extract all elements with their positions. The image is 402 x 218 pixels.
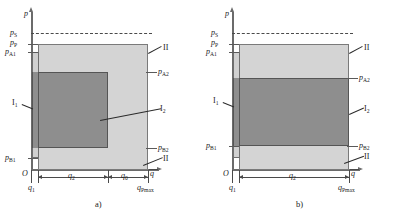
tick-pa2-a [146, 72, 157, 73]
label-ps-a: pS [10, 29, 17, 37]
panel-b: p pS pP pA1 pB1 O q pA2 pB2 II II I1 I2 [201, 0, 402, 218]
dim-label-qpmax-b: qPmax [338, 184, 355, 192]
leader-ii-top-a [148, 46, 162, 54]
label-pb1-a: pB1 [5, 154, 16, 162]
label-pa1-a: pA1 [5, 48, 16, 56]
tick-pa1-a [28, 52, 38, 53]
label-ii-bottom-a: II [163, 155, 168, 163]
dim-label-q2-a: q2 [68, 172, 75, 180]
label-pa2-a: pA2 [158, 68, 169, 76]
dim-tick-qpmax-b [349, 170, 350, 183]
axis-label-q-b: q [351, 170, 355, 178]
label-i2-b: I2 [364, 105, 369, 113]
dim-line-q0-a [108, 177, 148, 178]
origin-label-a: O [22, 170, 28, 178]
label-pp-a: pP [10, 39, 17, 47]
caption-a: a) [95, 199, 102, 209]
dim-arrow-q2-right-a [104, 175, 108, 179]
origin-label-b: O [223, 170, 229, 178]
tick-pp-a [28, 44, 38, 45]
dim-label-q1-b: q1 [229, 184, 236, 192]
label-pp-b: pP [211, 39, 218, 47]
region-i2-b [239, 78, 349, 146]
tick-pb1-a [28, 158, 38, 159]
dim-arrow-q2-left-b [239, 175, 243, 179]
dim-label-q0-a: q0 [121, 172, 128, 180]
ps-dashed-line-b [232, 33, 353, 34]
dim-arrow-q0-left-a [108, 175, 112, 179]
label-ii-top-a: II [163, 44, 168, 52]
dim-label-qpmax-a: qPmax [137, 184, 154, 192]
label-pb2-a: pB2 [158, 144, 169, 152]
tick-pb1-b [229, 146, 239, 147]
tick-pb2-b [347, 146, 358, 147]
dim-tick-q1-b [232, 170, 233, 183]
dim-tick-qpmax-a [148, 170, 149, 183]
dim-arrow-q2-left-a [38, 175, 42, 179]
label-pa1-b: pA1 [206, 48, 217, 56]
ps-dashed-line-a [31, 33, 152, 34]
label-ii-top-b: II [364, 44, 369, 52]
q-label-overbar-b [350, 169, 359, 170]
tick-pp-b [229, 44, 239, 45]
p-axis-arrow-b [230, 7, 234, 12]
dim-arrow-q0-right-a [144, 175, 148, 179]
tick-pa1-b [229, 52, 239, 53]
dim-label-q1-a: q1 [28, 184, 35, 192]
caption-b: b) [296, 199, 303, 209]
leader-ii-top-b [349, 46, 363, 54]
label-ii-bottom-b: II [364, 153, 369, 161]
tick-pb2-a [146, 148, 157, 149]
label-pa2-b: pA2 [359, 74, 370, 82]
label-i1-b: I1 [213, 97, 218, 105]
dim-arrow-q2-right-b [345, 175, 349, 179]
region-i2-a [38, 72, 108, 148]
tick-pa2-b [347, 78, 358, 79]
label-ps-b: pS [211, 29, 218, 37]
panel-a: p pS pP pA1 pB1 O q pA2 pB2 II II I1 I2 [0, 0, 201, 218]
dim-label-q2-b: q2 [289, 172, 296, 180]
axis-label-q-a: q [150, 170, 154, 178]
label-pb1-b: pB1 [206, 142, 217, 150]
leader-i2-b [349, 107, 364, 114]
dim-tick-q1-a [31, 170, 32, 183]
q-label-overbar-a [149, 169, 158, 170]
label-i1-a: I1 [12, 99, 17, 107]
p-axis-arrow-a [29, 7, 33, 12]
axis-label-p-b: p [225, 10, 229, 18]
label-pb2-b: pB2 [359, 142, 370, 150]
axis-label-p-a: p [24, 10, 28, 18]
